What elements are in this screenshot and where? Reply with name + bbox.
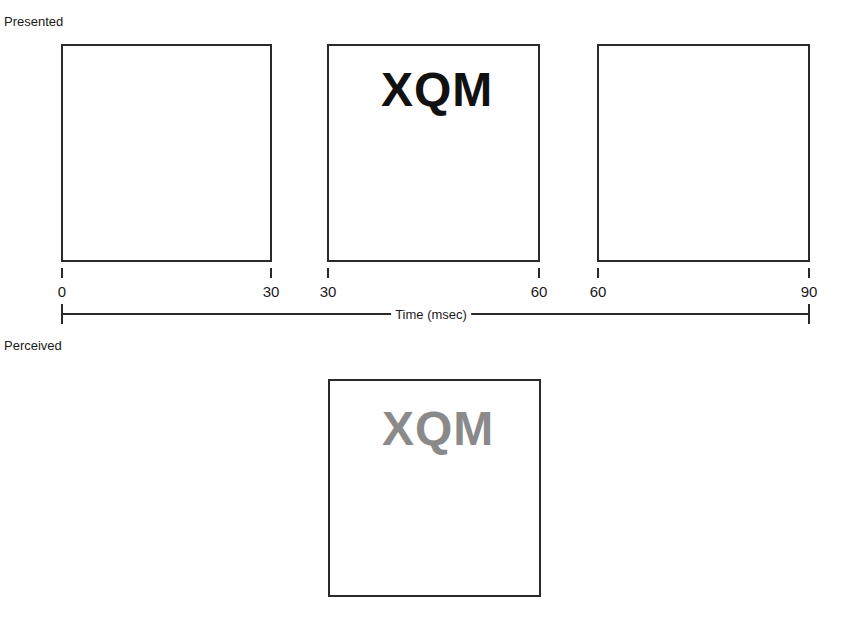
time-axis-title: Time (msec) <box>391 307 471 322</box>
tick-frame1-start <box>61 268 63 278</box>
tick-label-frame3-start: 60 <box>590 283 607 300</box>
tick-frame3-end <box>808 268 810 278</box>
tick-frame3-start <box>597 268 599 278</box>
tick-frame2-start <box>327 268 329 278</box>
tick-label-frame1-end: 30 <box>263 283 280 300</box>
presented-frame-3 <box>597 44 810 262</box>
tick-label-frame1-start: 0 <box>58 283 66 300</box>
tick-frame2-end <box>538 268 540 278</box>
tick-label-frame3-end: 90 <box>801 283 818 300</box>
presented-frame-1 <box>61 44 272 262</box>
perceived-label: Perceived <box>4 338 62 353</box>
perceived-stimulus-text: XQM <box>382 405 494 453</box>
time-axis-end-cap <box>808 304 810 324</box>
presented-stimulus-text: XQM <box>381 66 493 114</box>
tick-label-frame2-start: 30 <box>320 283 337 300</box>
tick-label-frame2-end: 60 <box>531 283 548 300</box>
presented-label: Presented <box>4 14 63 29</box>
tick-frame1-end <box>270 268 272 278</box>
